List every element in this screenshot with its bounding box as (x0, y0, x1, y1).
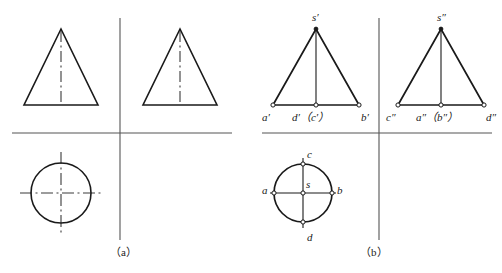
label-side-base-mid-a-dprime-b-dprime: a″（b″） (416, 112, 458, 123)
vertex-marker-s-prime (314, 27, 318, 31)
label-side-base-right-d-dprime: d″ (486, 112, 496, 123)
caption-panel-b: （b） (360, 247, 388, 258)
top-view-circle-a-outline (31, 163, 91, 223)
label-side-apex-s-dprime: s″ (437, 12, 446, 23)
vertex-marker-b-prime (357, 103, 361, 107)
vertex-marker-s-dprime (439, 27, 443, 31)
side-view-triangle-b (396, 27, 486, 107)
top-view-circle-b (270, 158, 336, 228)
point-marker-d (301, 220, 305, 224)
front-view-triangle-b (271, 27, 361, 107)
panel-a-group (12, 18, 232, 240)
vertex-marker-a-dprime-b-dprime (439, 103, 443, 107)
figure-drawing-canvas (0, 0, 502, 273)
label-top-center-s: s (306, 179, 310, 190)
label-top-top-c: c (307, 149, 312, 160)
point-marker-s-center (301, 191, 305, 195)
label-front-base-mid-d-prime-c-prime: d′（c′） (292, 112, 329, 123)
vertex-marker-c-dprime (396, 103, 400, 107)
side-view-triangle-a (143, 29, 217, 105)
label-top-bottom-d: d (307, 232, 313, 243)
label-top-right-b: b (337, 185, 343, 196)
label-front-apex-s-prime: s′ (312, 12, 319, 23)
point-marker-c (301, 162, 305, 166)
point-marker-b (330, 191, 334, 195)
orthographic-projection-figure: s′ a′ d′（c′） b′ s″ c″ a″（b″） d″ a b c d … (0, 0, 502, 273)
vertex-marker-d-prime-c-prime (314, 103, 318, 107)
label-side-base-left-c-dprime: c″ (386, 112, 395, 123)
vertex-marker-d-dprime (482, 103, 486, 107)
top-view-circle-a (20, 152, 102, 234)
label-top-left-a: a (262, 185, 268, 196)
vertex-marker-a-prime (271, 103, 275, 107)
panel-b-group (262, 18, 492, 240)
caption-panel-a: （a） (110, 247, 137, 258)
label-front-base-right-b-prime: b′ (361, 112, 369, 123)
front-view-triangle-a (24, 29, 98, 105)
point-marker-a (272, 191, 276, 195)
label-front-base-left-a-prime: a′ (262, 112, 270, 123)
